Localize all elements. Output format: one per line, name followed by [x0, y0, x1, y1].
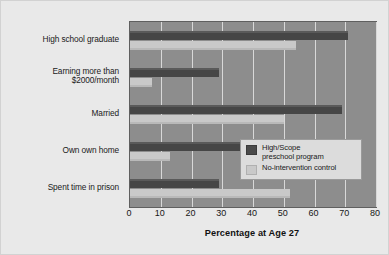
bar-group: [130, 59, 376, 96]
category-label: High school graduate: [1, 35, 119, 45]
category-label: Earning more than$2000/month: [1, 67, 119, 86]
x-tick-label: 60: [303, 208, 325, 218]
gridline-80: [376, 22, 377, 207]
x-tick-label: 30: [210, 208, 232, 218]
category-axis-labels: High school graduateEarning more than$20…: [1, 21, 123, 206]
x-tick-label: 80: [364, 208, 386, 218]
bar: [130, 189, 290, 198]
legend-swatch-dark: [246, 145, 257, 155]
bar: [130, 68, 219, 77]
legend-swatch-light: [246, 165, 257, 175]
legend-label: No-intervention control: [262, 164, 336, 173]
x-tick-label: 70: [333, 208, 355, 218]
category-label-line: Married: [92, 108, 119, 118]
bar-group: [130, 22, 376, 59]
chart-figure: High school graduateEarning more than$20…: [0, 0, 389, 255]
legend-item[interactable]: High/Scopepreschool program: [246, 144, 357, 161]
category-label-line: $2000/month: [1, 76, 119, 86]
bar: [130, 41, 296, 50]
legend-label: High/Scopepreschool program: [262, 144, 324, 161]
category-label: Own own home: [1, 146, 119, 156]
x-axis-title: Percentage at Age 27: [129, 228, 375, 238]
bar: [130, 31, 348, 40]
x-tick-label: 50: [272, 208, 294, 218]
category-label-line: Own own home: [63, 145, 119, 155]
bar: [130, 105, 342, 114]
x-axis-tick-labels: 01020304050607080: [129, 208, 375, 222]
x-tick-label: 0: [118, 208, 140, 218]
bar: [130, 142, 241, 151]
category-label: Spent time in prison: [1, 183, 119, 193]
category-label-line: Spent time in prison: [48, 182, 119, 192]
category-label: Married: [1, 109, 119, 119]
bar: [130, 78, 152, 87]
category-label-line: High school graduate: [43, 34, 119, 44]
legend-item[interactable]: No-intervention control: [246, 164, 357, 175]
bar: [130, 152, 170, 161]
bar-group: [130, 96, 376, 133]
bar: [130, 115, 284, 124]
bar: [130, 179, 219, 188]
x-tick-label: 40: [241, 208, 263, 218]
category-label-line: Earning more than: [52, 66, 119, 76]
x-tick-label: 20: [180, 208, 202, 218]
chart-legend: High/Scopepreschool programNo-interventi…: [240, 139, 362, 180]
x-tick-label: 10: [149, 208, 171, 218]
